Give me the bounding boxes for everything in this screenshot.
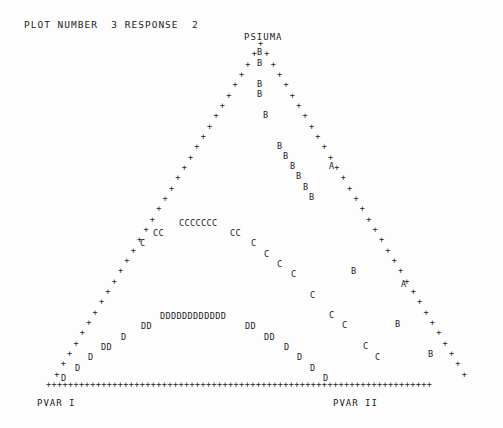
border-plus: +	[360, 203, 366, 213]
border-plus: +	[131, 245, 137, 255]
border-plus: +	[61, 358, 67, 368]
border-plus: +	[334, 162, 340, 172]
border-plus: +	[105, 286, 111, 296]
border-plus: +	[201, 131, 207, 141]
contour-point-b: B	[257, 58, 263, 68]
contour-point-d: DD	[141, 321, 152, 331]
contour-point-b: B	[296, 171, 302, 181]
contour-point-d: DDDDDDDDDDDD	[160, 311, 226, 321]
border-plus: +	[245, 59, 251, 69]
contour-point-b: B	[263, 110, 269, 120]
border-plus: +	[207, 121, 213, 131]
border-plus: +	[443, 338, 449, 348]
contour-point-c: C	[329, 310, 335, 320]
border-plus: +	[163, 193, 169, 203]
border-plus: +	[112, 276, 118, 286]
border-plus: +	[67, 348, 73, 358]
contour-point-b: B	[283, 151, 289, 161]
border-plus: +	[220, 100, 226, 110]
contour-point-b: B	[309, 192, 315, 202]
contour-point-d: D	[284, 342, 290, 352]
baseline-plus-row: ++++++++++++++++++++++++++++++++++++++++…	[46, 379, 432, 389]
border-plus: +	[341, 172, 347, 182]
border-plus: +	[296, 100, 302, 110]
border-plus: +	[392, 255, 398, 265]
border-plus: +	[169, 183, 175, 193]
contour-point-d: DD	[245, 321, 256, 331]
contour-point-d: D	[310, 363, 316, 373]
contour-point-c: C	[251, 238, 257, 248]
border-plus: +	[264, 48, 270, 58]
border-plus: +	[290, 90, 296, 100]
contour-point-a: A	[401, 279, 407, 289]
border-plus: +	[80, 327, 86, 337]
border-plus: +	[436, 327, 442, 337]
contour-point-b: B	[290, 161, 296, 171]
contour-point-d: D	[75, 363, 81, 373]
border-plus: +	[194, 141, 200, 151]
border-plus: +	[347, 183, 353, 193]
contour-point-a: A	[329, 161, 335, 171]
contour-point-d: DD	[264, 332, 275, 342]
border-plus: +	[188, 152, 194, 162]
contour-point-b: B	[303, 182, 309, 192]
border-plus: +	[373, 224, 379, 234]
border-plus: +	[417, 296, 423, 306]
contour-point-b: B	[277, 141, 283, 151]
contour-point-d: D	[323, 373, 329, 383]
contour-point-d: D	[88, 352, 94, 362]
contour-point-b: B	[395, 319, 401, 329]
border-plus: +	[277, 69, 283, 79]
border-plus: +	[175, 172, 181, 182]
contour-point-c: C	[375, 352, 381, 362]
border-plus: +	[309, 121, 315, 131]
contour-point-d: D	[121, 332, 127, 342]
contour-point-c: CCCCCCC	[179, 218, 218, 228]
contour-point-c: C	[264, 249, 270, 259]
contour-point-b: B	[257, 47, 263, 57]
border-plus: +	[303, 110, 309, 120]
border-plus: +	[411, 286, 417, 296]
border-plus: +	[455, 358, 461, 368]
border-plus: +	[379, 234, 385, 244]
border-plus: +	[124, 255, 130, 265]
border-plus: +	[430, 317, 436, 327]
contour-point-c: C	[140, 238, 146, 248]
border-plus: +	[182, 162, 188, 172]
contour-point-c: C	[277, 259, 283, 269]
contour-point-d: DD	[101, 342, 112, 352]
contour-point-d: D	[297, 352, 303, 362]
border-plus: +	[449, 348, 455, 358]
border-plus: +	[73, 338, 79, 348]
contour-point-b: B	[428, 349, 434, 359]
contour-point-c: C	[363, 341, 369, 351]
contour-point-c: CC	[230, 228, 241, 238]
contour-point-c: C	[310, 290, 316, 300]
vertex-label-right: PVAR II	[333, 398, 378, 408]
border-plus: +	[271, 59, 277, 69]
border-plus: +	[423, 307, 429, 317]
border-plus: +	[213, 110, 219, 120]
border-plus: +	[385, 245, 391, 255]
border-plus: +	[353, 193, 359, 203]
border-plus: +	[366, 214, 372, 224]
ternary-plot: PLOT NUMBER 3 RESPONSE 2 PSIUMA PVAR I P…	[0, 0, 503, 428]
border-plus: +	[462, 369, 468, 379]
contour-point-c: C	[291, 269, 297, 279]
border-plus: +	[283, 79, 289, 89]
border-plus: +	[156, 203, 162, 213]
contour-point-c: C	[342, 320, 348, 330]
border-plus: +	[233, 79, 239, 89]
contour-point-b: B	[257, 89, 263, 99]
contour-point-b: B	[257, 79, 263, 89]
border-plus: +	[315, 131, 321, 141]
border-plus: +	[239, 69, 245, 79]
border-plus: +	[398, 265, 404, 275]
plot-title: PLOT NUMBER 3 RESPONSE 2	[24, 20, 199, 30]
border-plus: +	[54, 369, 60, 379]
border-plus: +	[322, 141, 328, 151]
border-plus: +	[226, 90, 232, 100]
border-plus: +	[93, 307, 99, 317]
border-plus: +	[99, 296, 105, 306]
contour-point-d: D	[61, 373, 67, 383]
